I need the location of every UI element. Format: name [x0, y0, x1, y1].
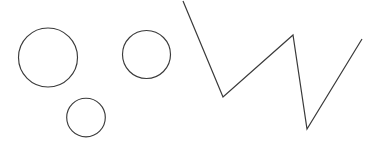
sketch-svg — [0, 0, 371, 156]
drawing-canvas: Shapes Sketch Three hand-drawn circles o… — [0, 0, 371, 156]
small-circle — [67, 98, 106, 137]
medium-circle — [123, 31, 171, 79]
zigzag-polyline — [183, 1, 362, 129]
large-circle — [19, 28, 78, 87]
